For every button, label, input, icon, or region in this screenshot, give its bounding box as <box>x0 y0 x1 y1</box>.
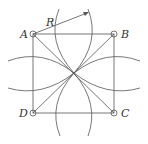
arc-right-horizontal <box>74 57 140 91</box>
label-radius: R <box>45 16 54 29</box>
label-b: B <box>120 28 129 41</box>
arc-left-horizontal <box>8 57 74 91</box>
label-a: A <box>19 28 28 41</box>
radius-line <box>33 13 87 34</box>
arc-left-vertical <box>55 9 74 136</box>
arc-right-vertical <box>74 9 92 136</box>
label-c: C <box>121 107 130 120</box>
square-arc-diagram: A B C D R <box>0 0 148 144</box>
label-d: D <box>18 107 28 120</box>
diagram-svg: A B C D R <box>0 0 148 144</box>
